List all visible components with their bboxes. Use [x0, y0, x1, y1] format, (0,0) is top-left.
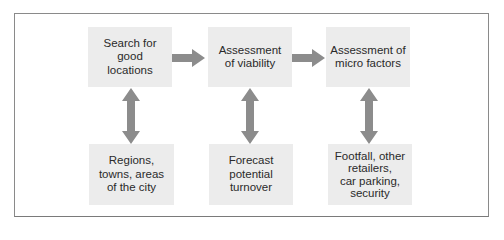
- double-arrow-vertical-icon: [240, 88, 260, 144]
- box-assessment-of-micro-factors: Assessment of micro factors: [326, 27, 410, 87]
- box-line: Assessment of: [330, 44, 405, 58]
- box-line: of viability: [219, 57, 282, 71]
- box-forecast-potential-turnover: Forecast potential turnover: [209, 144, 293, 205]
- box-line: retailers,: [335, 162, 405, 175]
- box-line: potential: [229, 168, 274, 182]
- box-line: Search for: [103, 37, 156, 51]
- box-line: good: [103, 50, 156, 64]
- box-line: Footfall, other: [335, 150, 405, 163]
- double-arrow-vertical-icon: [121, 88, 141, 144]
- box-line: Forecast: [229, 154, 274, 168]
- right-arrow-icon: [292, 48, 326, 68]
- box-regions-towns-areas: Regions, towns, areas of the city: [89, 144, 174, 205]
- double-arrow-vertical-icon: [359, 88, 379, 144]
- box-line: of the city: [99, 181, 164, 195]
- box-line: Regions,: [99, 154, 164, 168]
- box-line: turnover: [229, 181, 274, 195]
- box-footfall-retailers-parking-security: Footfall, other retailers, car parking, …: [328, 144, 412, 205]
- right-arrow-icon: [172, 48, 206, 68]
- box-line: micro factors: [330, 57, 405, 71]
- box-line: locations: [103, 64, 156, 78]
- box-line: security: [335, 187, 405, 200]
- box-search-good-locations: Search for good locations: [88, 27, 172, 87]
- box-line: car parking,: [335, 175, 405, 188]
- box-line: Assessment: [219, 44, 282, 58]
- box-line: towns, areas: [99, 168, 164, 182]
- box-assessment-of-viability: Assessment of viability: [208, 27, 292, 87]
